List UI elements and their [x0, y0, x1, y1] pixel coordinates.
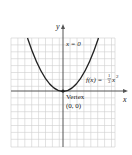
fraction-numerator: 1 — [108, 73, 110, 78]
vertex-point — [61, 89, 64, 92]
function-label-prefix: f(x) = — [86, 76, 102, 84]
svg-text:f(x) =: f(x) = — [86, 76, 102, 84]
y-axis-arrow-icon — [61, 24, 65, 29]
parabola-graph: y x x = 0 f(x) = 1 3 x 2 Vertex (0, 0) — [0, 0, 132, 155]
x-axis-arrow-icon — [123, 89, 128, 93]
vertex-coords: (0, 0) — [66, 102, 82, 110]
axis-of-symmetry-label: x = 0 — [65, 40, 81, 48]
y-axis-label: y — [55, 22, 60, 31]
fraction-denominator: 3 — [108, 79, 111, 84]
function-label-exponent: 2 — [116, 74, 119, 79]
x-axis-label: x — [122, 95, 127, 104]
vertex-title: Vertex — [66, 93, 85, 101]
